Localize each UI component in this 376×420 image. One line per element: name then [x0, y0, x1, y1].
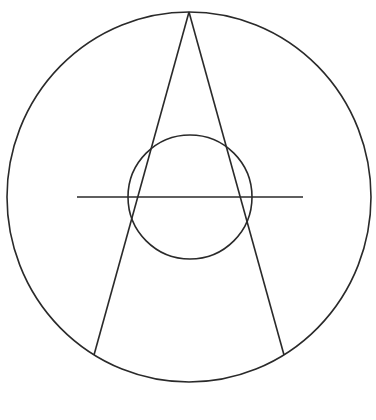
geometry-diagram — [0, 0, 376, 420]
right-slant-line — [189, 12, 284, 355]
left-slant-line — [94, 12, 189, 355]
